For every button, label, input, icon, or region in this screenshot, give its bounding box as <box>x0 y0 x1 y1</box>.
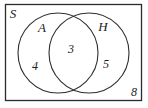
set-label-h: H <box>97 19 108 34</box>
universal-set-label: S <box>10 6 17 21</box>
set-label-a: A <box>37 20 46 35</box>
region-count-a-only: 4 <box>32 59 38 73</box>
region-count-h-only: 5 <box>103 57 109 71</box>
region-count-intersection: 3 <box>67 42 74 56</box>
region-count-outside: 8 <box>131 85 137 99</box>
venn-diagram-figure: S A H 4 3 5 8 <box>0 0 148 108</box>
